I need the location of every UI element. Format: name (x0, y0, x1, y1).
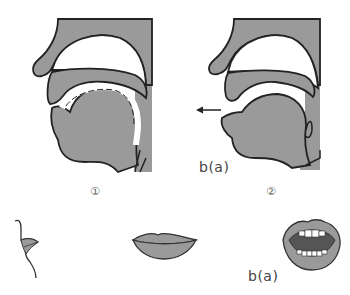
lips-front-closed (133, 234, 196, 259)
panel-2-tongue-jaw (222, 94, 310, 168)
phonetics-diagram: ① ② (0, 0, 350, 295)
panel-2-sound-label: b(a) (199, 159, 229, 175)
panel-1-number: ① (90, 185, 100, 198)
panel-2-airflow-arrow (196, 107, 221, 114)
panel-2-vocal-tract (196, 19, 320, 170)
lips-front-open (283, 220, 340, 270)
open-mouth-sound-label: b(a) (248, 268, 278, 284)
upper-teeth (299, 230, 325, 237)
lips-profile-lip-fill (21, 239, 38, 254)
diagram-canvas: ① ② (0, 0, 350, 295)
panel-2-number: ② (266, 185, 276, 198)
lips-profile (15, 220, 38, 278)
panel-1-vocal-tract (33, 19, 152, 172)
